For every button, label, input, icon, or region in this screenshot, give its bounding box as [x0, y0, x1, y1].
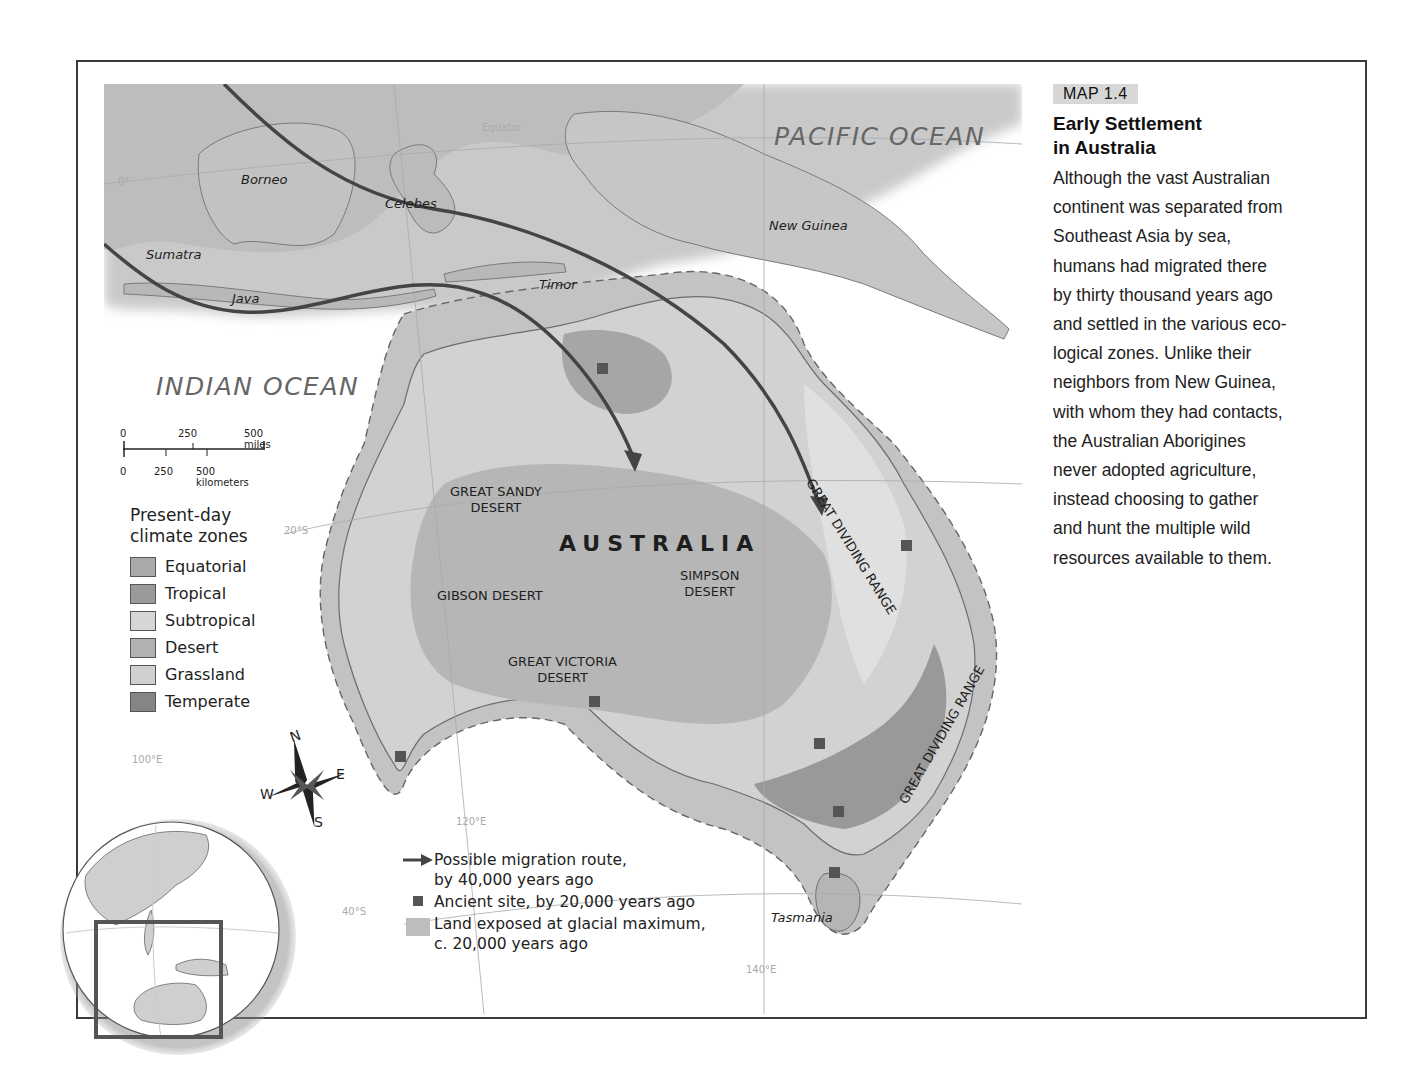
caption-title: Early Settlement in Australia — [1053, 112, 1353, 160]
legend-grassland: Grassland — [130, 661, 255, 688]
arrow-right-icon — [403, 854, 433, 866]
label-sumatra: Sumatra — [146, 247, 202, 262]
legend-tropical: Tropical — [130, 580, 255, 607]
label-tasmania: Tasmania — [771, 910, 833, 925]
key-ancient-site: Ancient site, by 20,000 years ago — [402, 892, 706, 912]
legend-equatorial: Equatorial — [130, 553, 255, 580]
square-site-icon — [413, 896, 423, 906]
label-borneo: Borneo — [241, 172, 287, 187]
map-number-badge: MAP 1.4 — [1053, 84, 1138, 104]
swatch-desert — [130, 638, 156, 658]
label-australia: AUSTRALIA — [559, 531, 760, 556]
compass-w: W — [260, 786, 274, 802]
label-great-victoria-desert: GREAT VICTORIA DESERT — [508, 654, 617, 686]
label-celebes: Celebes — [385, 196, 437, 211]
legend-desert: Desert — [130, 634, 255, 661]
swatch-grassland — [130, 665, 156, 685]
key-exposed-land: Land exposed at glacial maximum,c. 20,00… — [402, 914, 706, 954]
label-simpson-desert: SIMPSON DESERT — [680, 568, 739, 600]
label-timor: Timor — [539, 277, 577, 292]
swatch-temperate — [130, 692, 156, 712]
label-pacific-ocean: PACIFIC OCEAN — [774, 122, 985, 151]
swatch-equatorial — [130, 557, 156, 577]
compass-s: S — [314, 814, 323, 830]
exposed-land-swatch — [406, 918, 430, 936]
map-caption: MAP 1.4 Early Settlement in Australia Al… — [1053, 84, 1353, 573]
compass-e: E — [336, 766, 345, 782]
swatch-tropical — [130, 584, 156, 604]
label-great-sandy-desert: GREAT SANDY DESERT — [450, 484, 542, 516]
label-40s: 40°S — [342, 906, 366, 917]
label-120e: 120°E — [456, 816, 486, 827]
swatch-subtropical — [130, 611, 156, 631]
legend-subtropical: Subtropical — [130, 607, 255, 634]
legend-temperate: Temperate — [130, 688, 255, 715]
label-20s: 20°S — [284, 525, 308, 536]
key-migration-route: Possible migration route,by 40,000 years… — [402, 850, 706, 890]
label-equator: Equator — [482, 122, 521, 133]
climate-zones-legend: Present-day climate zones Equatorial Tro… — [130, 505, 255, 715]
label-indian-ocean: INDIAN OCEAN — [156, 372, 359, 401]
locator-globe — [56, 815, 296, 1055]
label-100e: 100°E — [132, 754, 162, 765]
label-java: Java — [232, 291, 259, 306]
label-new-guinea: New Guinea — [769, 218, 848, 233]
label-0deg: 0° — [118, 176, 129, 187]
globe-icon — [56, 815, 296, 1055]
label-140e: 140°E — [746, 964, 776, 975]
symbol-key: Possible migration route,by 40,000 years… — [402, 850, 706, 956]
scale-ruler — [123, 441, 273, 459]
label-gibson-desert: GIBSON DESERT — [437, 588, 543, 604]
caption-body: Although the vast Australian continent w… — [1053, 164, 1353, 573]
